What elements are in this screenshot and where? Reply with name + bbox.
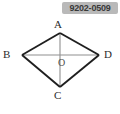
vertex-label-a: A	[54, 19, 62, 30]
vertex-label-o: O	[58, 58, 65, 68]
edge-CD-line	[60, 55, 99, 87]
vertex-label-d: D	[104, 49, 112, 60]
edge-AD-line	[60, 33, 99, 55]
id-badge: 9202-0509	[62, 2, 118, 14]
vertex-label-b: B	[3, 49, 10, 60]
figure-screenshot: 9202-0509 A B D C O	[0, 0, 120, 114]
vertex-label-c: C	[54, 90, 61, 101]
edge-AB-line	[22, 33, 60, 55]
edge-BC-line	[22, 55, 60, 87]
id-badge-text: 9202-0509	[69, 4, 110, 13]
